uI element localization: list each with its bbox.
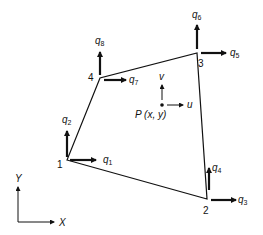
x-axis-label: X — [58, 217, 66, 228]
label-q1: q1 — [103, 154, 113, 166]
node-label-1: 1 — [57, 159, 63, 170]
label-q3: q3 — [238, 194, 248, 206]
label-q7: q7 — [129, 74, 139, 86]
label-v: v — [159, 71, 165, 82]
node-label-4: 4 — [88, 72, 94, 83]
point-p-dot — [160, 103, 164, 107]
y-axis-label: Y — [15, 173, 23, 184]
label-q4: q4 — [212, 162, 222, 174]
label-point-p: P (x, y) — [135, 109, 166, 120]
label-u: u — [187, 99, 193, 110]
node-label-2: 2 — [203, 205, 209, 216]
label-q5: q5 — [230, 47, 240, 59]
label-q2: q2 — [62, 114, 72, 126]
label-q8: q8 — [95, 35, 105, 47]
quad-element-diagram: q1 q2 q3 q4 q5 q6 q7 q8 1 2 3 4 v u P (x… — [0, 0, 263, 235]
node-label-3: 3 — [198, 58, 204, 69]
label-q6: q6 — [192, 9, 202, 21]
